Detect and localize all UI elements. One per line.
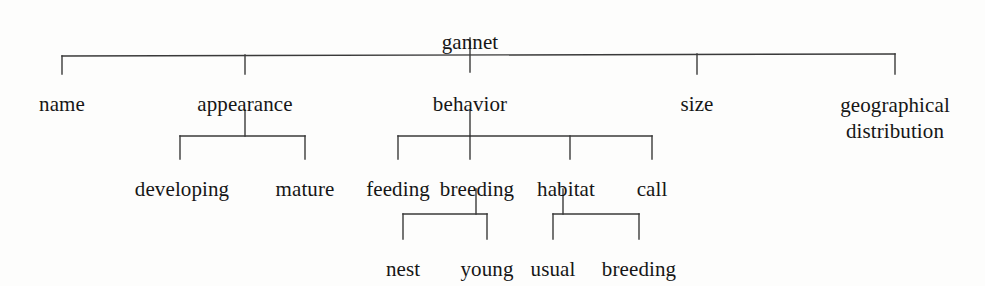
- tree-node-usual: usual: [531, 257, 576, 282]
- tree-node-label: behavior: [433, 92, 507, 116]
- tree-node-label: appearance: [197, 92, 292, 116]
- tree-node-behavior: behavior: [433, 92, 507, 117]
- tree-node-label: usual: [531, 257, 576, 281]
- tree-node-gannet: gannet: [442, 30, 499, 55]
- tree-node-young: young: [461, 257, 514, 282]
- tree-node-label: geographical: [840, 93, 950, 117]
- tree-node-label-line2: distribution: [846, 119, 944, 143]
- tree-node-label: call: [637, 177, 668, 201]
- tree-node-breeding-habitat: breeding: [602, 257, 676, 282]
- tree-node-label: nest: [386, 257, 420, 281]
- tree-node-developing: developing: [135, 177, 229, 202]
- tree-node-call: call: [637, 177, 668, 202]
- tree-node-label: size: [680, 92, 713, 116]
- tree-node-label: gannet: [442, 30, 499, 54]
- tree-node-size: size: [680, 92, 713, 117]
- tree-node-label: breeding: [602, 257, 676, 281]
- tree-node-label: developing: [135, 177, 229, 201]
- tree-node-label: habitat: [537, 177, 595, 201]
- tree-node-label: feeding: [366, 177, 430, 201]
- tree-node-label: breeding: [440, 177, 514, 201]
- tree-node-feeding: feeding: [366, 177, 430, 202]
- tree-node-appearance: appearance: [197, 92, 292, 117]
- tree-node-label: young: [461, 257, 514, 281]
- tree-diagram: gannetnameappearancebehaviorsizegeograph…: [0, 0, 985, 286]
- tree-node-mature: mature: [276, 177, 335, 202]
- tree-node-label: name: [39, 92, 85, 116]
- tree-node-nest: nest: [386, 257, 420, 282]
- tree-node-breeding: breeding: [440, 177, 514, 202]
- tree-node-geographical-distribution: geographicaldistribution: [840, 92, 950, 144]
- tree-node-label: mature: [276, 177, 335, 201]
- tree-node-habitat: habitat: [537, 177, 595, 202]
- tree-node-name: name: [39, 92, 85, 117]
